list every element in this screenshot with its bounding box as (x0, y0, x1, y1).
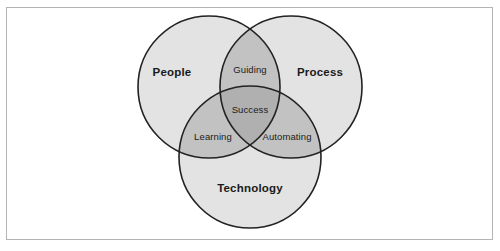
intersection-label-guiding: Guiding (233, 64, 266, 75)
intersection-label-learning: Learning (194, 131, 232, 142)
set-label-people: People (153, 66, 192, 78)
set-label-process: Process (297, 66, 343, 78)
venn-diagram-figure: People Process Technology Guiding Learni… (0, 0, 500, 251)
intersection-label-automating: Automating (262, 131, 311, 142)
set-label-technology: Technology (217, 182, 283, 194)
venn-diagram-canvas: People Process Technology Guiding Learni… (0, 0, 500, 251)
intersection-label-success: Success (232, 104, 269, 115)
